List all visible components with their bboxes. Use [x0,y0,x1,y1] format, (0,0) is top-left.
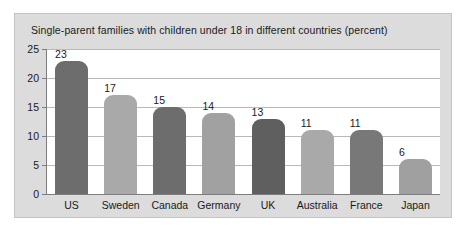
x-category-label: Germany [197,199,240,211]
bar-value-label: 15 [153,94,165,106]
y-tick-label: 25 [27,43,39,55]
bar-wrapper: 6 [399,159,432,194]
bar[interactable] [252,119,285,194]
gridline [47,78,440,79]
bar[interactable] [202,113,235,194]
chart-title: Single-parent families with children und… [31,24,388,36]
y-tick-mark [42,165,47,166]
bar-value-label: 11 [350,117,361,129]
bar-group[interactable]: 6Japan [399,159,432,194]
bar-wrapper: 17 [104,95,137,194]
x-category-label: Japan [401,199,430,211]
y-tick-mark [42,107,47,108]
bar[interactable] [399,159,432,194]
bar-group[interactable]: 11France [350,130,383,194]
bar-value-label: 11 [301,117,312,129]
y-tick-label: 15 [27,101,39,113]
plot-area: 0510152025 23US17Sweden15Canada14Germany… [46,49,440,195]
bar[interactable] [153,107,186,194]
y-tick-label: 10 [27,130,39,142]
x-category-label: France [350,199,383,211]
bar-wrapper: 23 [55,61,88,194]
bar-value-label: 23 [55,48,67,60]
y-tick-mark [42,194,47,195]
bar[interactable] [301,130,334,194]
x-category-label: US [64,199,79,211]
y-tick-label: 20 [27,72,39,84]
bar[interactable] [350,130,383,194]
y-tick-mark [42,136,47,137]
y-tick-label: 0 [33,188,39,200]
bar-wrapper: 13 [252,119,285,194]
bar-wrapper: 14 [202,113,235,194]
bar-value-label: 14 [202,100,214,112]
bar-value-label: 13 [252,106,264,118]
x-category-label: Australia [297,199,338,211]
bar-wrapper: 15 [153,107,186,194]
y-tick-label: 5 [33,159,39,171]
bar-value-label: 17 [104,82,116,94]
bar-group[interactable]: 14Germany [202,113,235,194]
bar[interactable] [104,95,137,194]
bar-wrapper: 11 [350,130,383,194]
bar-value-label: 6 [399,146,405,158]
bar[interactable] [55,61,88,194]
gridline [47,49,440,50]
bar-group[interactable]: 15Canada [153,107,186,194]
y-tick-mark [42,49,47,50]
chart-panel: Single-parent families with children und… [14,13,452,218]
bar-group[interactable]: 11Australia [301,130,334,194]
x-category-label: Canada [151,199,188,211]
y-tick-mark [42,78,47,79]
bar-group[interactable]: 23US [55,61,88,194]
x-category-label: Sweden [102,199,140,211]
bar-group[interactable]: 17Sweden [104,95,137,194]
bar-group[interactable]: 13UK [252,119,285,194]
x-category-label: UK [261,199,276,211]
bar-wrapper: 11 [301,130,334,194]
